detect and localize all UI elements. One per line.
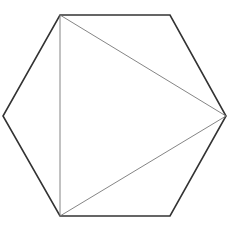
- hexagon-diagram: [0, 0, 230, 234]
- inscribed-triangle: [60, 15, 226, 216]
- hexagon: [3, 15, 226, 216]
